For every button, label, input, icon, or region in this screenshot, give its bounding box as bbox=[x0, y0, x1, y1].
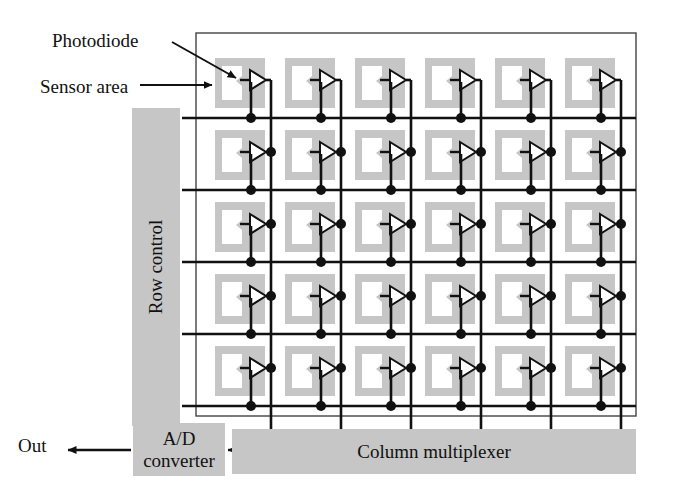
row-control-label: Row control bbox=[145, 220, 167, 314]
sensor-area-label: Sensor area bbox=[40, 76, 128, 97]
ad-converter-block: A/D converter bbox=[133, 423, 225, 476]
column-multiplexer-block: Column multiplexer bbox=[232, 429, 636, 474]
row-control-block: Row control bbox=[132, 108, 180, 426]
ad-converter-label-line1: A/D bbox=[163, 428, 196, 449]
ad-converter-label: A/D converter bbox=[143, 428, 215, 472]
photodiode-label: Photodiode bbox=[52, 30, 139, 51]
sensor-array-diagram: Photodiode Sensor area Out Row control A… bbox=[0, 0, 675, 498]
ad-converter-label-line2: converter bbox=[143, 450, 215, 471]
column-multiplexer-label: Column multiplexer bbox=[357, 441, 511, 463]
out-label: Out bbox=[18, 435, 47, 456]
diagram-canvas bbox=[0, 0, 675, 498]
